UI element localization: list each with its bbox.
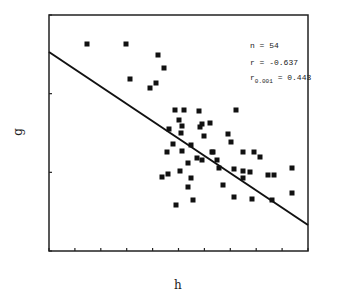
r-crit-subscript: 0.001 (255, 78, 273, 85)
scatter-plot (0, 0, 356, 295)
y-axis-label: g (11, 128, 25, 136)
annotation-n: n = 54 (250, 41, 279, 50)
annotation-r-critical: r0.001 = 0.443 (250, 73, 311, 82)
annotation-r: r = -0.637 (250, 58, 298, 67)
r-crit-suffix: = 0.443 (273, 73, 311, 82)
x-axis-label: h (174, 278, 182, 292)
